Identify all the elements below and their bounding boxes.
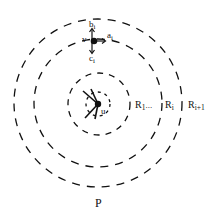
ring-label-ri: Ri: [165, 99, 174, 112]
arrow-right-label: ai: [107, 30, 113, 42]
ring-label-r1: R1...: [135, 99, 152, 112]
node-v-label: v: [82, 34, 87, 44]
diagram-title-p: P: [95, 196, 102, 210]
node-u-label: u: [101, 106, 106, 116]
arrow-down-label: ci: [89, 53, 95, 65]
node-v-group: [90, 29, 106, 54]
radial-diagram: u v bi ai ci R1... Ri Ri+1 P: [0, 0, 224, 223]
ring-label-ri1: Ri+1: [188, 99, 205, 112]
